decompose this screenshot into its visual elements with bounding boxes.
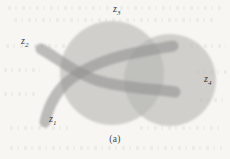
figure-container: z1 z2 z3 z4 (a) bbox=[0, 0, 230, 159]
region-label-z4: z4 bbox=[204, 74, 212, 87]
region-label-z1: z1 bbox=[49, 114, 57, 127]
figure-caption: (a) bbox=[0, 134, 230, 144]
region-label-z3: z3 bbox=[113, 4, 121, 17]
region-label-z2: z2 bbox=[21, 36, 29, 49]
